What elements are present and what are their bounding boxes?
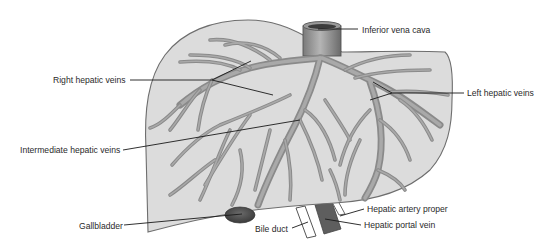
label-right-hepatic-veins: Right hepatic veins [53, 75, 126, 85]
liver-diagram: Inferior vena cava Right hepatic veins L… [0, 0, 555, 252]
label-inferior-vena-cava: Inferior vena cava [362, 25, 431, 35]
label-bile-duct: Bile duct [255, 224, 289, 234]
inferior-vena-cava-shape [303, 22, 341, 57]
label-hepatic-artery-proper: Hepatic artery proper [367, 204, 448, 214]
label-intermediate-hepatic-veins: Intermediate hepatic veins [20, 145, 120, 155]
porta-hepatis-vessels [296, 201, 345, 238]
bile-duct-shape [296, 206, 316, 238]
label-gallbladder: Gallbladder [79, 221, 123, 231]
label-hepatic-portal-vein: Hepatic portal vein [364, 220, 435, 230]
liver-outline [146, 20, 453, 232]
label-left-hepatic-veins: Left hepatic veins [467, 88, 534, 98]
